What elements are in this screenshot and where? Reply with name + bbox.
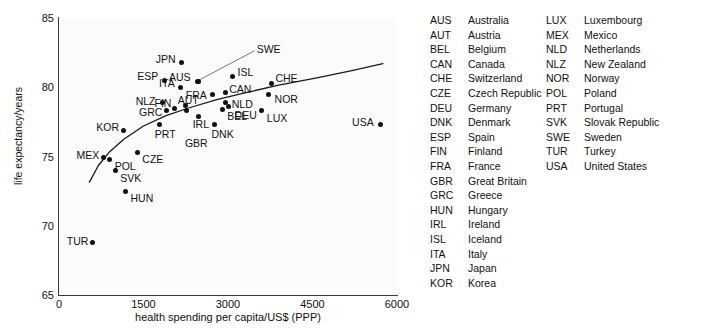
legend-row: AUSAustralia [430,14,542,29]
x-tick-label: 1500 [119,298,169,310]
legend-row: SWESweden [546,131,659,146]
data-point-label-prt: PRT [155,129,176,140]
data-point-label-tur: TUR [67,236,89,247]
data-point-label-cze: CZE [142,154,163,165]
legend-country-code: SWE [546,131,584,143]
legend-row: LUXLuxembourg [546,14,659,29]
x-tick-label: 3000 [203,298,253,310]
data-point-fin [172,106,177,111]
legend-country-code: MEX [546,29,584,41]
legend-country-name: Portugal [584,102,659,114]
legend-row: DNKDenmark [430,116,542,131]
legend-row: GBRGreat Britain [430,175,542,190]
legend-country-code: NLZ [546,58,584,70]
legend-country-code: USA [546,160,584,172]
country-code-legend: AUSAustraliaAUTAustriaBELBelgiumCANCanad… [410,0,709,332]
data-point-label-irl: IRL [193,119,209,130]
data-point-svk [113,168,118,173]
legend-country-name: Italy [468,248,542,260]
data-point-bel [220,107,225,112]
legend-country-name: Poland [584,87,659,99]
legend-row: TURTurkey [546,145,659,160]
legend-country-name: Netherlands [584,43,659,55]
legend-row: FINFinland [430,145,542,160]
data-point-label-fin: FIN [154,98,171,109]
legend-country-code: AUS [430,14,468,26]
legend-country-name: Mexico [584,29,659,41]
legend-country-name: Ireland [468,218,542,230]
legend-row: JPNJapan [430,262,542,277]
legend-country-code: CAN [430,58,468,70]
legend-country-name: Switzerland [468,72,542,84]
legend-country-code: LUX [546,14,584,26]
legend-country-name: Germany [468,102,542,114]
legend-country-name: Korea [468,277,542,289]
x-tick-label: 0 [34,298,84,310]
y-tick-label: 75 [30,151,54,163]
legend-row: NLDNetherlands [546,43,659,58]
legend-row: NLZNew Zealand [546,58,659,73]
legend-country-name: Finland [468,145,542,157]
legend-row: HUNHungary [430,204,542,219]
data-point-label-swe: SWE [257,44,281,55]
legend-country-name: Turkey [584,145,659,157]
scatter-plot-figure-with-country-legend: 6570758085 01500300045006000 TURMEXPOLSV… [0,0,709,332]
data-point-label-isl: ISL [238,67,254,78]
legend-country-code: FRA [430,160,468,172]
y-axis-label: life expectancy/years [12,61,24,211]
data-point-fra [210,92,215,97]
legend-country-name: Australia [468,14,542,26]
legend-row: CHESwitzerland [430,72,542,87]
data-point-label-jpn: JPN [156,54,176,65]
legend-row: SVKSlovak Republic [546,116,659,131]
legend-row: FRAFrance [430,160,542,175]
data-point-label-lux: LUX [267,113,287,124]
y-tick-label: 85 [30,12,54,24]
data-point-usa [378,122,383,127]
legend-country-name: Japan [468,262,542,274]
legend-country-name: Greece [468,189,542,201]
legend-country-code: FIN [430,145,468,157]
legend-row: MEXMexico [546,29,659,44]
legend-country-code: IRL [430,218,468,230]
legend-country-name: Spain [468,131,542,143]
data-point-ita [178,85,183,90]
data-point-label-gbr: GBR [185,138,208,149]
legend-country-name: France [468,160,542,172]
legend-row: ISLIceland [430,233,542,248]
legend-country-name: Great Britain [468,175,542,187]
legend-country-code: PRT [546,102,584,114]
legend-country-name: Hungary [468,204,542,216]
legend-country-name: Iceland [468,233,542,245]
legend-country-name: Canada [468,58,542,70]
legend-country-name: Czech Republic [468,87,542,99]
data-point-isl [230,74,235,79]
y-tick-label: 70 [30,220,54,232]
data-point-label-fra: FRA [186,90,207,101]
legend-country-code: NLD [546,43,584,55]
data-point-label-can: CAN [229,84,251,95]
data-point-label-esp: ESP [137,71,158,82]
legend-country-name: Slovak Republic [584,116,659,128]
legend-row: IRLIreland [430,218,542,233]
legend-country-code: ESP [430,131,468,143]
x-tick-label: 4500 [288,298,338,310]
legend-country-code: ITA [430,248,468,260]
data-point-label-kor: KOR [96,122,119,133]
legend-row: KORKorea [430,277,542,292]
data-point-label-pol: POL [115,161,136,172]
data-point-label-nor: NOR [275,94,298,105]
data-point-che [269,81,274,86]
legend-country-code: SVK [546,116,584,128]
legend-country-name: Belgium [468,43,542,55]
legend-row: NORNorway [546,72,659,87]
legend-row: CZECzech Republic [430,87,542,102]
legend-country-name: Luxembourg [584,14,659,26]
legend-country-name: New Zealand [584,58,659,70]
chart-figure: 6570758085 01500300045006000 TURMEXPOLSV… [0,0,410,332]
data-point-label-mex: MEX [77,150,100,161]
legend-row: ESPSpain [430,131,542,146]
legend-row: PRTPortugal [546,102,659,117]
data-point-label-svk: SVK [120,173,141,184]
legend-country-name: Sweden [584,131,659,143]
